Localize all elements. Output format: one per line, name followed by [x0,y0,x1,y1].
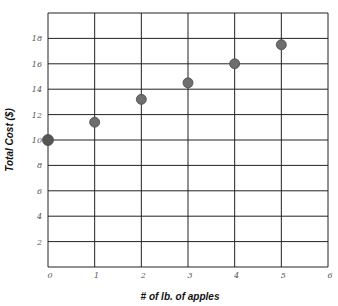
data-points [43,40,287,146]
y-tick-label: 18 [32,34,42,43]
x-tick-label: 6 [327,271,332,280]
y-axis-title: Total Cost ($) [4,108,15,172]
x-tick-label: 1 [94,271,99,280]
x-axis-ticks: 0123456 [47,271,332,280]
y-tick-label: 16 [32,60,42,69]
y-tick-label: 6 [37,187,42,196]
data-point [136,94,146,104]
y-tick-label: 2 [36,238,42,247]
y-axis-ticks: 24681012141618 [32,34,42,246]
data-point [43,135,54,146]
y-tick-label: 4 [36,212,42,221]
data-point [183,78,193,88]
data-point [276,40,286,50]
x-tick-label: 2 [140,271,146,280]
x-tick-label: 5 [281,271,286,280]
y-tick-label: 8 [37,161,42,170]
data-point [230,59,240,69]
grid-lines [48,13,328,267]
data-point [90,117,100,127]
x-tick-label: 3 [187,271,192,280]
x-tick-label: 4 [233,271,239,280]
y-tick-label: 10 [32,136,42,145]
scatter-chart: 24681012141618 0123456 Total Cost ($) # … [0,0,338,306]
y-tick-label: 14 [32,85,42,94]
x-axis-title: # of lb. of apples [141,291,220,302]
y-tick-label: 12 [32,111,42,120]
x-tick-label: 0 [47,271,52,280]
